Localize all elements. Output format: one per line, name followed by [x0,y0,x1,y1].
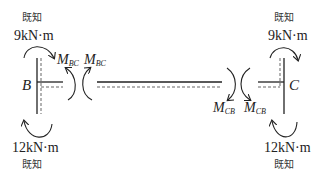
joint-c: MCB 既知 9kN·m C 12kN·m 既知 [241,11,311,170]
end-moment-arrow-icon [227,68,235,100]
beam-end-moment-label-left: MBC [83,52,107,68]
end-moment-label-c: MCB [243,100,266,116]
known-label-b-bottom: 既知 [22,158,42,170]
moment-value-b-bottom: 12kN·m [12,140,59,155]
beam-end-moment-label-right: MCB [212,100,235,116]
end-moment-arrow-icon [241,68,250,100]
beam-bc: MBC MCB [83,52,236,116]
end-moment-arrow-icon [83,68,92,100]
clockwise-arrow-icon [272,121,297,137]
beam-free-body-diagram: 既知 9kN·m B 12kN·m 既知 MBC MBC MCB MCB 既知 … [0,0,321,173]
known-label-c-bottom: 既知 [274,158,294,170]
clockwise-arrow-icon [24,47,54,58]
moment-value-c-top: 9kN·m [268,28,308,43]
end-moment-arrow-icon [66,68,75,100]
end-moment-label-b: MBC [56,52,80,68]
moment-value-c-bottom: 12kN·m [264,140,311,155]
joint-b: 既知 9kN·m B 12kN·m 既知 MBC [12,11,80,170]
known-label-c-top: 既知 [274,11,294,23]
moment-value-b-top: 9kN·m [14,28,54,43]
known-label-b-top: 既知 [22,11,42,23]
node-label-c: C [289,77,300,93]
clockwise-arrow-icon [24,121,52,137]
node-label-b: B [22,77,31,93]
